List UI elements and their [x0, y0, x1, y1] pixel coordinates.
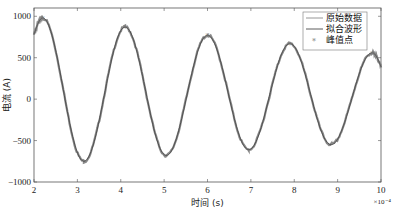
x-tick-label: 3 — [75, 185, 80, 195]
peak-point-marker: * — [370, 50, 374, 59]
y-tick-label: −1000 — [8, 177, 32, 187]
x-axis-exponent: ×10⁻⁴ — [374, 198, 392, 206]
y-tick-label: 0 — [27, 94, 32, 104]
y-tick-label: −500 — [12, 136, 31, 146]
chart: ***** 2345678910−1000−50005001000 时间 (s)… — [0, 0, 393, 213]
y-tick-label: 500 — [18, 53, 32, 63]
peak-point-marker: * — [206, 32, 210, 41]
x-tick-label: 8 — [292, 185, 297, 195]
legend-label-fitted-wave: 拟合波形 — [326, 23, 362, 34]
x-tick-label: 4 — [119, 185, 124, 195]
x-tick-label: 9 — [335, 185, 340, 195]
peak-point-marker: * — [288, 41, 292, 50]
legend-label-raw-data: 原始数据 — [326, 12, 362, 23]
x-tick-label: 6 — [205, 185, 210, 195]
x-axis-label: 时间 (s) — [191, 197, 224, 208]
legend: 原始数据 拟合波形 * 峰值点 — [303, 12, 367, 50]
x-tick-label: 5 — [162, 185, 167, 195]
x-tick-label: 7 — [249, 185, 254, 195]
y-tick-label: 1000 — [13, 11, 32, 21]
x-tick-label: 10 — [377, 185, 387, 195]
legend-marker-peak-points: * — [312, 37, 316, 46]
y-axis-label: 电流 (A) — [1, 78, 12, 112]
legend-label-peak-points: 峰值点 — [326, 34, 353, 45]
x-tick-label: 2 — [32, 185, 37, 195]
peak-point-marker: * — [123, 24, 127, 33]
peak-point-marker: * — [41, 15, 45, 24]
